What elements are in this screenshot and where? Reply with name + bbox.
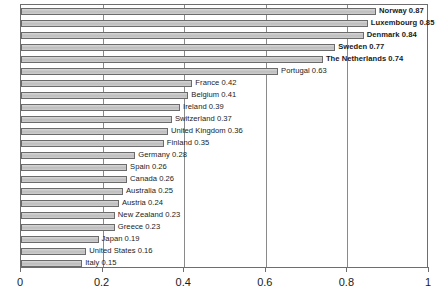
bar-row: Spain 0.26 [21, 161, 427, 173]
bar [21, 224, 115, 231]
bar-data-label: United States 0.16 [89, 247, 152, 255]
x-tick [20, 267, 21, 272]
bar [21, 44, 335, 51]
bar-row: Denmark 0.84 [21, 29, 427, 41]
bar [21, 140, 164, 147]
bar [21, 200, 119, 207]
x-tick [346, 267, 347, 272]
bar-data-label: France 0.42 [195, 79, 236, 87]
bar-row: Austria 0.24 [21, 197, 427, 209]
horizontal-bar-chart: Norway 0.87Luxembourg 0.85Denmark 0.84Sw… [0, 0, 440, 301]
x-tick [428, 267, 429, 272]
bar [21, 56, 323, 63]
bar-row: Canada 0.26 [21, 173, 427, 185]
bar-row: The Netherlands 0.74 [21, 53, 427, 65]
bar-data-label: Italy 0.15 [85, 259, 116, 267]
x-tick [102, 267, 103, 272]
bar-data-label: Australia 0.25 [126, 187, 173, 195]
bar-row: Sweden 0.77 [21, 41, 427, 53]
bar [21, 8, 376, 15]
bar [21, 248, 86, 255]
bar [21, 80, 192, 87]
bar-data-label: Norway 0.87 [379, 7, 424, 15]
bar [21, 260, 82, 267]
bar-data-label: The Netherlands 0.74 [326, 55, 403, 63]
bar-row: New Zealand 0.23 [21, 209, 427, 221]
bar-row: Greece 0.23 [21, 221, 427, 233]
bar [21, 152, 135, 159]
bar [21, 128, 168, 135]
bar-data-label: Portugal 0.63 [281, 67, 327, 75]
x-tick [183, 267, 184, 272]
bar-data-label: Austria 0.24 [122, 199, 163, 207]
bar-row: Ireland 0.39 [21, 101, 427, 113]
bar [21, 164, 127, 171]
bar-row: Belgium 0.41 [21, 89, 427, 101]
bar-row: Japan 0.19 [21, 233, 427, 245]
bar-data-label: Canada 0.26 [130, 175, 174, 183]
bar-data-label: Denmark 0.84 [367, 31, 417, 39]
bar-data-label: Greece 0.23 [118, 223, 160, 231]
bar [21, 188, 123, 195]
x-tick-label: 0.8 [339, 276, 354, 288]
bar-data-label: New Zealand 0.23 [118, 211, 180, 219]
bar [21, 32, 364, 39]
bar-row: Australia 0.25 [21, 185, 427, 197]
bar-row: Germany 0.28 [21, 149, 427, 161]
bar-row: Switzerland 0.37 [21, 113, 427, 125]
x-tick-label: 0.6 [257, 276, 272, 288]
bar [21, 116, 172, 123]
x-tick-label: 0 [17, 276, 23, 288]
bar-data-label: Finland 0.35 [167, 139, 209, 147]
bar [21, 236, 99, 243]
bar-data-label: Ireland 0.39 [183, 103, 224, 111]
bar-row: Luxembourg 0.85 [21, 17, 427, 29]
bar [21, 104, 180, 111]
bar-data-label: Spain 0.26 [130, 163, 167, 171]
x-axis-line [20, 267, 428, 268]
bar-data-label: Luxembourg 0.85 [371, 19, 435, 27]
bar-data-label: Belgium 0.41 [191, 91, 236, 99]
x-tick-label: 0.4 [176, 276, 191, 288]
bar [21, 212, 115, 219]
bar-row: Finland 0.35 [21, 137, 427, 149]
bar [21, 92, 188, 99]
bar-data-label: Sweden 0.77 [338, 43, 384, 51]
bar-row: France 0.42 [21, 77, 427, 89]
bar-rows: Norway 0.87Luxembourg 0.85Denmark 0.84Sw… [21, 5, 427, 267]
bar-data-label: Switzerland 0.37 [175, 115, 232, 123]
plot-area: Norway 0.87Luxembourg 0.85Denmark 0.84Sw… [20, 4, 428, 268]
bar-row: Portugal 0.63 [21, 65, 427, 77]
bar [21, 176, 127, 183]
x-tick-label: 0.2 [94, 276, 109, 288]
x-tick [265, 267, 266, 272]
bar-data-label: Japan 0.19 [102, 235, 140, 243]
bar-row: Norway 0.87 [21, 5, 427, 17]
bar-row: United Kingdom 0.36 [21, 125, 427, 137]
bar-data-label: Germany 0.28 [138, 151, 187, 159]
bar [21, 68, 278, 75]
bar-data-label: United Kingdom 0.36 [171, 127, 243, 135]
x-tick-label: 1 [425, 276, 431, 288]
bar [21, 20, 368, 27]
bar-row: United States 0.16 [21, 245, 427, 257]
